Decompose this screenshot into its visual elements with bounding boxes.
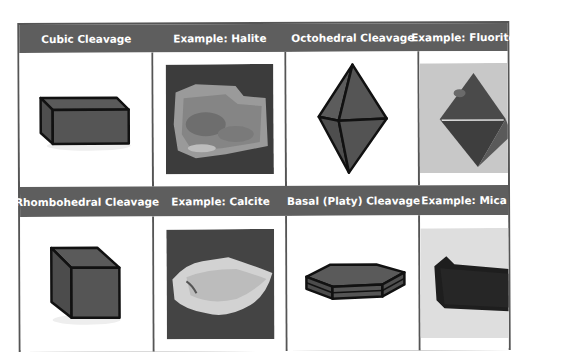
rectangular-prism-icon [31,80,141,160]
header-rhombohedral-cleavage: Rhombohedral Cleavage [20,186,154,217]
octahedron-icon [312,60,393,176]
header-example-mica: Example: Mica [420,185,508,215]
halite-photo [165,64,273,174]
rhombohedron-icon [41,239,131,329]
mica-photo [420,227,508,337]
header-cubic-cleavage: Cubic Cleavage [19,24,153,53]
header-basal-platy-cleavage: Basal (Platy) Cleavage [287,185,420,216]
cell-halite-photo [153,52,287,187]
header-octohedral-cleavage: Octohedral Cleavage [286,23,419,52]
cell-rhombohedral-diagram [20,216,155,352]
cell-cubic-diagram [19,52,154,187]
fluorite-photo [419,63,507,173]
header-row-2: Rhombohedral Cleavage Example: Calcite B… [20,185,508,217]
body-row-2 [20,215,509,352]
header-example-halite: Example: Halite [153,24,286,53]
header-example-calcite: Example: Calcite [154,186,287,217]
cell-octahedral-diagram [286,51,420,186]
cell-basal-diagram [287,215,421,351]
cell-fluorite-photo [419,51,508,185]
hexagonal-plate-icon [298,258,408,308]
cleavage-types-table: Cubic Cleavage Example: Halite Octohedra… [17,21,510,352]
header-example-fluorite: Example: Fluorite [419,23,507,51]
calcite-photo [166,228,274,338]
cell-calcite-photo [154,216,288,352]
cell-mica-photo [420,215,509,350]
header-row-1: Cubic Cleavage Example: Halite Octohedra… [19,23,507,53]
body-row-1 [19,51,508,187]
